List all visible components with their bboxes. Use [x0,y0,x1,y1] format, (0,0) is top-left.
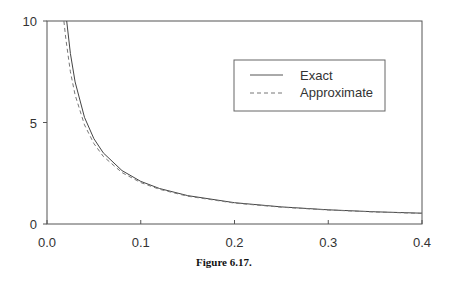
plot-series [64,21,422,213]
figure-caption: Figure 6.17. [196,256,252,268]
x-tick-label: 0.0 [38,235,56,250]
y-tick-label: 0 [30,217,37,232]
x-tick-label: 0.4 [413,235,431,250]
series-approximate [64,21,422,213]
legend-exact-label: Exact [300,68,333,83]
series-exact [67,21,422,213]
y-tick-label: 5 [30,116,37,131]
x-tick-label: 0.2 [225,235,243,250]
x-tick-label: 0.1 [132,235,150,250]
plot-frame [47,21,422,224]
legend: Exact Approximate [234,60,385,111]
chart: 0510 0.00.10.20.30.4 Exact Approximate [0,0,451,285]
x-tick-label: 0.3 [319,235,337,250]
legend-approx-label: Approximate [300,85,373,100]
y-tick-label: 10 [23,14,37,29]
y-axis: 0510 [23,14,47,232]
